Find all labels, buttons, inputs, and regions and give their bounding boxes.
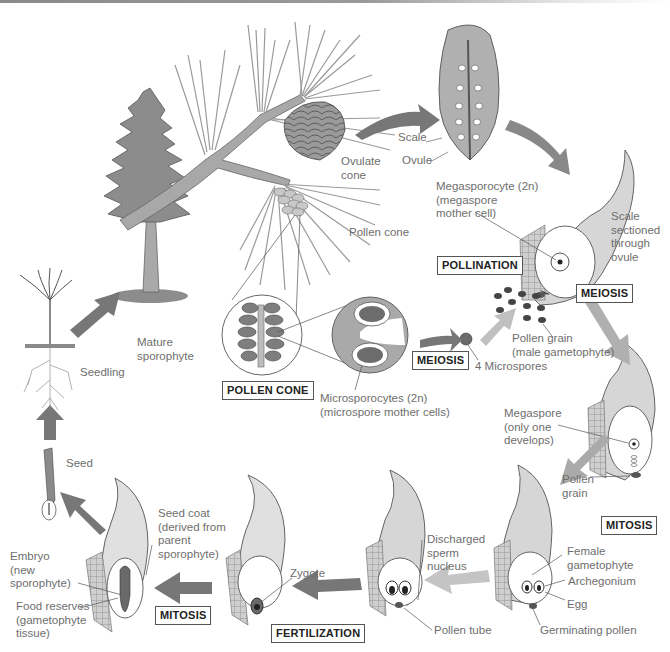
seedling-drawing (20, 268, 75, 410)
label-archegonium: Archegonium (568, 575, 636, 589)
label-egg: Egg (567, 598, 587, 612)
stage-box-mitosis-female: MITOSIS (601, 516, 657, 535)
label-four-microspores: 4 Microspores (475, 360, 547, 374)
label-megaspore: Megaspore (only one develops) (504, 407, 562, 448)
label-ovulate-cone: Ovulate cone (341, 155, 381, 182)
label-embryo: Embryo (new sporophyte) (10, 550, 71, 591)
label-seedling: Seedling (80, 366, 125, 380)
label-pollen-tube: Pollen tube (434, 624, 492, 638)
label-scale-sectioned: Scale sectioned through ovule (611, 210, 660, 264)
stage-box-meiosis-megaspore: MEIOSIS (576, 284, 633, 303)
label-zygote: Zygote (290, 567, 325, 581)
ovule-fertilization (366, 470, 432, 630)
label-food-reserves: Food reserves (gametophyte tissue) (16, 600, 90, 641)
ovule-megaspore (558, 340, 655, 480)
ovulate-cone-section (426, 25, 499, 162)
label-pollen-grain-male: Pollen grain (male gametophyte) (512, 332, 614, 359)
stage-box-pollen-cone: POLLEN CONE (222, 381, 314, 400)
ovule-zygote (226, 475, 292, 625)
pollen-cone-detail (222, 215, 408, 390)
label-seed: Seed (66, 457, 93, 471)
label-germinating-pollen: Germinating pollen (540, 624, 637, 638)
seed-drawing (42, 448, 56, 520)
label-ovule: Ovule (402, 154, 432, 168)
stage-box-mitosis-embryo: MITOSIS (155, 606, 211, 625)
label-megasporocyte: Megasporocyte (2n) (megaspore mother cel… (436, 180, 538, 221)
label-microsporocytes: Microsporocytes (2n) (microspore mother … (320, 392, 450, 419)
label-mature-sporophyte: Mature sporophyte (137, 336, 194, 363)
stage-box-meiosis-microspore: MEIOSIS (412, 351, 469, 370)
label-pollen-cone: Pollen cone (349, 226, 409, 240)
label-pollen-grain: Pollen grain (562, 473, 594, 500)
stage-box-fertilization: FERTILIZATION (271, 624, 365, 643)
label-seed-coat: Seed coat (derived from parent sporophyt… (158, 507, 226, 561)
stage-box-pollination: POLLINATION (437, 256, 523, 275)
label-female-gametophyte: Female gametophyte (567, 545, 634, 572)
ovule-female-gametophyte (494, 465, 565, 625)
label-discharged-sperm: Discharged sperm nucleus (427, 533, 485, 574)
ovulate-cone-drawing (284, 102, 345, 160)
label-scale: Scale (398, 131, 427, 145)
